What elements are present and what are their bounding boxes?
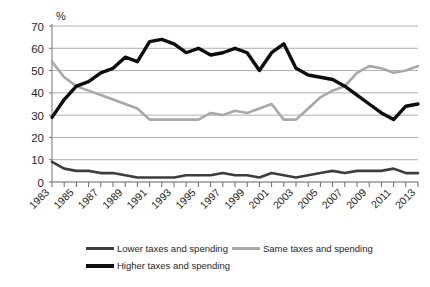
y-tick-label-10: 10 [31,154,44,166]
x-tick-label-2007: 2007 [319,186,344,211]
chart-container: 010203040506070 % 1983198519871989199119… [0,0,430,287]
legend-swatch-higher-taxes [86,264,114,268]
legend-label-lower-taxes: Lower taxes and spending [117,243,228,254]
series-line-higher-taxes-and-spending [52,39,418,119]
x-tick-label-1989: 1989 [100,186,125,211]
legend-item-higher-taxes: Higher taxes and spending [86,260,230,271]
x-tick-label-1991: 1991 [124,186,149,211]
legend-row-1: Lower taxes and spending Same taxes and … [86,240,406,257]
legend-swatch-same-taxes [232,247,260,250]
data-series-lines [52,39,418,177]
x-tick-label-1999: 1999 [222,186,247,211]
y-tick-label-70: 70 [31,21,44,33]
y-axis-unit-label: % [56,10,66,22]
y-tick-label-40: 40 [31,87,44,99]
legend-row-2: Higher taxes and spending [86,257,406,274]
x-tick-label-1997: 1997 [197,186,222,211]
legend-label-higher-taxes: Higher taxes and spending [117,260,230,271]
x-tick-label-2011: 2011 [369,186,394,211]
x-tick-label-1985: 1985 [51,186,76,211]
chart-legend: Lower taxes and spending Same taxes and … [86,240,406,274]
x-axis-ticks [52,182,418,187]
series-line-lower-taxes-and-spending [52,162,418,178]
legend-swatch-lower-taxes [86,247,114,250]
x-tick-label-1983: 1983 [26,186,51,211]
x-tick-label-2001: 2001 [246,186,271,211]
x-tick-label-2005: 2005 [295,186,320,211]
x-tick-label-2003: 2003 [270,186,295,211]
y-tick-label-60: 60 [31,43,44,55]
legend-label-same-taxes: Same taxes and spending [263,243,373,254]
x-axis-labels: 1983198519871989199119931995199719992001… [26,186,417,211]
x-tick-label-2009: 2009 [344,186,369,211]
x-tick-label-1987: 1987 [75,186,100,211]
x-tick-label-1995: 1995 [173,186,198,211]
legend-item-lower-taxes: Lower taxes and spending [86,243,228,254]
x-tick-label-1993: 1993 [148,186,173,211]
y-tick-label-20: 20 [31,132,44,144]
y-axis-labels: 010203040506070 [31,21,44,189]
x-tick-label-2013: 2013 [392,186,417,211]
y-tick-label-50: 50 [31,65,44,77]
y-tick-label-30: 30 [31,110,44,122]
legend-item-same-taxes: Same taxes and spending [232,243,373,254]
y-axis-unit-text: % [56,10,66,22]
